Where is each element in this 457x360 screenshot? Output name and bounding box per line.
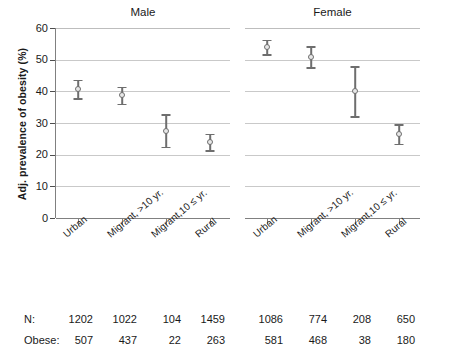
- data-point-female-migrant-le10: [352, 88, 358, 94]
- y-tick-label-60: 60: [22, 23, 48, 34]
- errorbar-cap-top-female-migrant-le10: [351, 66, 360, 68]
- table-cell-n-female-migrant-gt10: 774: [283, 313, 327, 325]
- errorbar-cap-top-female-urban: [263, 40, 272, 42]
- figure-root: Adj. prevalence of obesity (%) 60 50 40 …: [0, 0, 457, 360]
- errorbar-cap-bottom-female-migrant-le10: [351, 116, 360, 118]
- errorbar-cap-bottom-female-urban: [263, 54, 272, 56]
- table-row-label-n: N:: [24, 313, 35, 325]
- gridline-20: [56, 155, 230, 156]
- data-point-female-migrant-gt10: [308, 54, 314, 60]
- table-cell-obese-female-migrant-gt10: 468: [283, 334, 327, 346]
- table-cell-obese-male-urban: 507: [49, 334, 93, 346]
- gridline-40-female: [245, 91, 420, 92]
- errorbar-cap-bottom-male-rural: [206, 150, 215, 152]
- table-cell-obese-female-migrant-le10: 38: [327, 334, 371, 346]
- errorbar-cap-bottom-male-urban: [74, 98, 83, 100]
- table-cell-obese-female-urban: 581: [239, 334, 283, 346]
- table-cell-obese-male-migrant-le10: 22: [137, 334, 181, 346]
- errorbar-cap-top-male-urban: [74, 80, 83, 82]
- table-cell-n-female-migrant-le10: 208: [327, 313, 371, 325]
- errorbar-cap-top-male-migrant-le10: [162, 114, 171, 116]
- gridline-50: [56, 60, 230, 61]
- errorbar-cap-bottom-male-migrant-gt10: [118, 104, 127, 106]
- gridline-60: [56, 28, 230, 29]
- gridline-40: [56, 91, 230, 92]
- table-cell-obese-male-rural: 263: [181, 334, 225, 346]
- gridline-10: [56, 186, 230, 187]
- table-cell-n-female-rural: 650: [371, 313, 415, 325]
- data-point-female-rural: [396, 131, 402, 137]
- y-tick-mark-0: [50, 218, 55, 219]
- y-tick-label-50: 50: [22, 54, 48, 65]
- x-tick-label-male-rural: Rural: [193, 216, 218, 240]
- gridline-50-female: [245, 60, 420, 61]
- table-cell-obese-female-rural: 180: [371, 334, 415, 346]
- errorbar-cap-bottom-female-migrant-gt10: [307, 67, 316, 69]
- table-cell-n-male-migrant-le10: 104: [137, 313, 181, 325]
- panel-title-male: Male: [56, 6, 230, 18]
- data-point-male-migrant-le10: [163, 128, 169, 134]
- errorbar-cap-top-male-migrant-gt10: [118, 87, 127, 89]
- errorbar-cap-top-male-rural: [206, 134, 215, 136]
- table-cell-n-female-urban: 1086: [239, 313, 283, 325]
- data-point-female-urban: [264, 44, 270, 50]
- table-cell-obese-male-migrant-gt10: 437: [93, 334, 137, 346]
- y-tick-label-20: 20: [22, 149, 48, 160]
- data-point-male-rural: [207, 139, 213, 145]
- data-point-male-urban: [75, 86, 81, 92]
- errorbar-cap-bottom-female-rural: [395, 144, 404, 146]
- errorbar-cap-top-female-rural: [395, 124, 404, 126]
- x-tick-label-female-rural: Rural: [383, 216, 408, 240]
- y-tick-label-10: 10: [22, 181, 48, 192]
- gridline-60-female: [245, 28, 420, 29]
- gridline-30: [56, 123, 230, 124]
- table-cell-n-male-urban: 1202: [49, 313, 93, 325]
- y-tick-label-0: 0: [22, 213, 48, 224]
- errorbar-cap-top-female-migrant-gt10: [307, 46, 316, 48]
- gridline-10-female: [245, 186, 420, 187]
- table-cell-n-male-migrant-gt10: 1022: [93, 313, 137, 325]
- table-cell-n-male-rural: 1459: [181, 313, 225, 325]
- y-tick-label-40: 40: [22, 86, 48, 97]
- gridline-20-female: [245, 155, 420, 156]
- panel-title-female: Female: [245, 6, 420, 18]
- errorbar-cap-bottom-male-migrant-le10: [162, 147, 171, 149]
- y-tick-label-30: 30: [22, 118, 48, 129]
- data-point-male-migrant-gt10: [119, 92, 125, 98]
